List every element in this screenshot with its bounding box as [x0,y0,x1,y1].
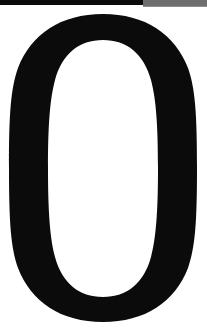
numeral-zero-path [9,14,197,322]
numeral-zero-svg [0,0,207,335]
scanned-page [0,0,207,335]
numeral-zero-glyph [0,0,207,335]
